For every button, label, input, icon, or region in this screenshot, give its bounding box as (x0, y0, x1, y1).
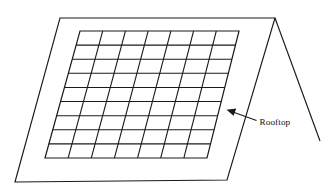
panel-grid-row-lines (49, 45, 236, 144)
rooftop-label: Rooftop (260, 117, 291, 127)
rooftop-arrow-icon (227, 109, 237, 116)
rooftop-diagram-canvas: Rooftop (0, 0, 335, 195)
panel-grid-column-lines (68, 31, 216, 158)
rooftop-callout (227, 109, 257, 121)
panel-grid-border (45, 31, 239, 158)
rooftop-leader-line (232, 112, 257, 121)
rooftop-diagram: Rooftop (0, 0, 335, 195)
